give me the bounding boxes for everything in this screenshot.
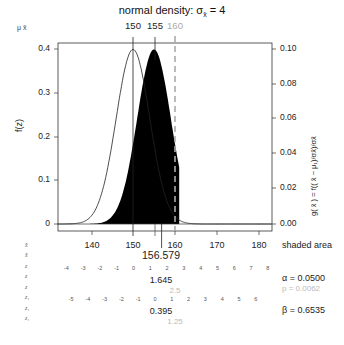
top-tick-160: 160 <box>167 20 183 31</box>
scale-tick: 3 <box>204 296 207 302</box>
scale-tick: 6 <box>233 265 236 271</box>
scale-tick: 0 <box>153 296 156 302</box>
scale-tick: 8 <box>266 265 269 271</box>
scale-tick: -4 <box>64 265 69 271</box>
scale-tick: -2 <box>97 265 102 271</box>
top-tick-155: 155 <box>147 20 163 31</box>
scale-tick: 2 <box>187 296 190 302</box>
top-tick-150: 150 <box>125 20 141 31</box>
scale-tick: 1 <box>170 296 173 302</box>
scale-tick: -1 <box>136 296 141 302</box>
row-label-z-2: z <box>25 273 27 279</box>
z-critical: 1.645 <box>150 275 173 285</box>
y-tick-0.1: 0.1 <box>20 174 50 184</box>
row-label-z-3: z <box>25 284 27 290</box>
scale-tick: -3 <box>102 296 107 302</box>
x-tick-150: 150 <box>125 240 140 250</box>
scale-tick: 6 <box>254 296 257 302</box>
r-tick-0.04: 0.04 <box>280 147 297 157</box>
y-tick-0: 0 <box>20 218 50 228</box>
x-tick-180: 180 <box>251 240 266 250</box>
scale-tick: 1 <box>149 265 152 271</box>
shaded-area-header: shaded area <box>282 240 332 250</box>
scale-tick: 7 <box>250 265 253 271</box>
z1-observed: 1.25 <box>167 317 183 326</box>
scale-tick: -3 <box>81 265 86 271</box>
mu-xbar-header: μ x̄ <box>17 24 26 31</box>
row-label-z1-3: z₁ <box>25 315 29 321</box>
alpha-value: α = 0.0500 <box>282 273 325 283</box>
y-tick-0.3: 0.3 <box>20 87 50 97</box>
row-label-z1: z₁ <box>25 294 29 300</box>
scale-tick: 2 <box>166 265 169 271</box>
scale-tick: 3 <box>182 265 185 271</box>
scale-tick: -5 <box>69 296 74 302</box>
y-axis-label-right: g( x̄ ) = f(( x̄ − μ₁)/σx̄)/σx̄ <box>309 136 318 216</box>
scale-tick: 5 <box>237 296 240 302</box>
scale-tick: -4 <box>85 296 90 302</box>
r-tick-0.06: 0.06 <box>280 112 297 122</box>
r-tick-0.10: 0.10 <box>280 43 297 53</box>
row-label-xbar: x̄ <box>25 242 28 248</box>
scale-tick: -2 <box>119 296 124 302</box>
row-label-z: z <box>25 263 27 269</box>
critical-value: 156.579 <box>142 249 180 261</box>
chart-title: normal density: σx̄ = 4 <box>0 4 344 18</box>
x-tick-140: 140 <box>84 240 99 250</box>
beta-value: β = 0.6535 <box>282 305 325 315</box>
scale-tick: -1 <box>114 265 119 271</box>
scale-tick: 4 <box>199 265 202 271</box>
r-tick-0.02: 0.02 <box>280 182 297 192</box>
z1-critical: 0.395 <box>150 306 173 316</box>
r-tick-0.08: 0.08 <box>280 78 297 88</box>
scale-tick: 4 <box>221 296 224 302</box>
y-tick-0.2: 0.2 <box>20 131 50 141</box>
r-tick-0.00: 0.00 <box>280 218 297 228</box>
p-value: p = 0.0062 <box>282 284 320 293</box>
x-tick-170: 170 <box>209 240 224 250</box>
alternative-density-fill <box>57 50 179 225</box>
row-label-z1-2: z₁ <box>25 305 29 311</box>
scale-tick: 0 <box>132 265 135 271</box>
scale-tick: 5 <box>216 265 219 271</box>
row-label-xbar-2: x̄ <box>25 252 28 258</box>
y-tick-0.4: 0.4 <box>20 43 50 53</box>
z-observed: 2.5 <box>169 286 180 295</box>
y-axis-label-left: f(z) <box>14 119 24 132</box>
